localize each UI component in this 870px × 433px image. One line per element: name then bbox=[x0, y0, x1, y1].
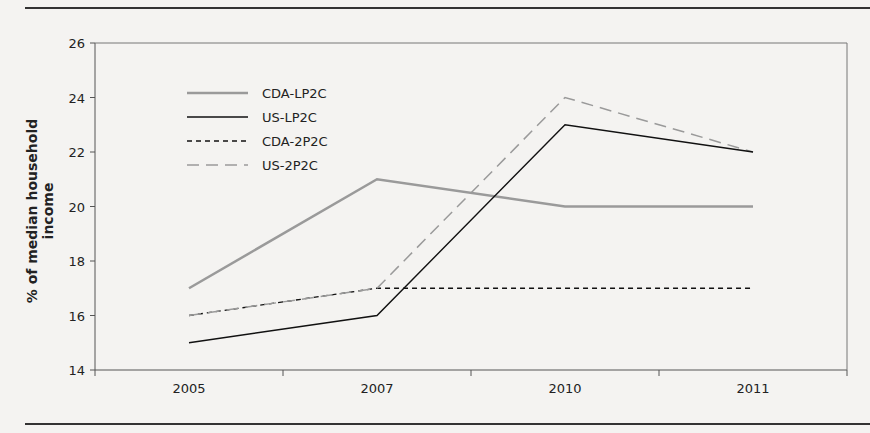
x-tick-label: 2005 bbox=[172, 381, 205, 396]
y-tick-label: 24 bbox=[68, 91, 85, 106]
series-line-cda-2p2c bbox=[189, 288, 753, 315]
legend-label: CDA-2P2C bbox=[262, 134, 328, 149]
legend-label: US-2P2C bbox=[262, 158, 318, 173]
x-tick-label: 2007 bbox=[360, 381, 393, 396]
x-tick-label: 2010 bbox=[548, 381, 581, 396]
axes: 141618202224262005200720102011 bbox=[68, 36, 847, 396]
y-tick-label: 26 bbox=[68, 36, 85, 51]
legend-label: CDA-LP2C bbox=[262, 86, 327, 101]
y-tick-label: 22 bbox=[68, 145, 85, 160]
x-tick-label: 2011 bbox=[736, 381, 769, 396]
legend-label: US-LP2C bbox=[262, 110, 317, 125]
series-line-cda-lp2c bbox=[189, 179, 753, 288]
y-tick-label: 14 bbox=[68, 363, 85, 378]
legend: CDA-LP2CUS-LP2CCDA-2P2CUS-2P2C bbox=[187, 86, 328, 173]
y-tick-label: 20 bbox=[68, 200, 85, 215]
y-tick-label: 18 bbox=[68, 254, 85, 269]
y-tick-label: 16 bbox=[68, 309, 85, 324]
line-chart: 141618202224262005200720102011 CDA-LP2CU… bbox=[0, 0, 870, 433]
